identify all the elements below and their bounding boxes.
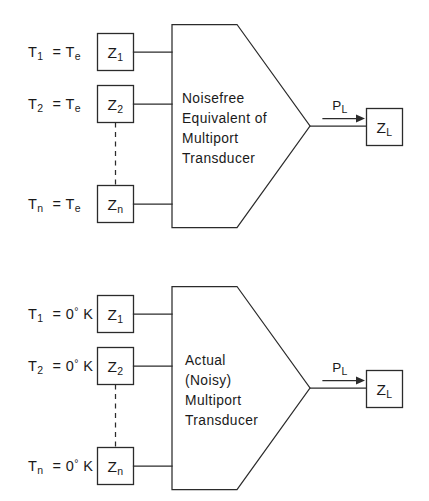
port-row-n: Tn = 0° K Zn bbox=[28, 448, 172, 485]
load-box-zl-label: ZL bbox=[376, 119, 392, 138]
transducer-block-shape bbox=[172, 25, 310, 228]
port-n-temperature-text: Tn = 0° K bbox=[28, 457, 93, 476]
port-row-2: T2 = 0° K Z2 bbox=[28, 348, 172, 385]
figure-root: T1 = Te Z1 T2 = Te Z2 bbox=[0, 0, 429, 501]
port-1-temperature-text: T1 = 0° K bbox=[28, 305, 93, 324]
output-power-label: PL bbox=[332, 360, 348, 377]
impedance-box-z1-label: Z1 bbox=[107, 306, 123, 325]
transducer-block-label: Actual (Noisy) Multiport Transducer bbox=[185, 353, 258, 428]
port-row-1: T1 = Te Z1 bbox=[28, 34, 172, 71]
impedance-box-z2-label: Z2 bbox=[107, 96, 123, 115]
impedance-box-zn-label: Zn bbox=[107, 196, 123, 215]
transducer-block-shape bbox=[172, 287, 310, 490]
diagram-actual-noisy: T1 = 0° K Z1 T2 = 0° K Z2 bbox=[28, 287, 403, 490]
output-group: PL ZL bbox=[310, 360, 403, 408]
diagram-noisefree-equivalent: T1 = Te Z1 T2 = Te Z2 bbox=[28, 25, 403, 228]
impedance-box-z2-label: Z2 bbox=[107, 358, 123, 377]
port-2-temperature-text: T2 = 0° K bbox=[28, 357, 93, 376]
block-diagram-svg: T1 = Te Z1 T2 = Te Z2 bbox=[0, 0, 429, 501]
port-row-2: T2 = Te Z2 bbox=[28, 86, 172, 123]
output-arrow-head-icon bbox=[356, 115, 365, 123]
port-n-temperature-text: Tn = Te bbox=[28, 196, 81, 214]
impedance-box-z1-label: Z1 bbox=[107, 44, 123, 63]
impedance-box-zn-label: Zn bbox=[107, 458, 123, 477]
output-arrow-head-icon bbox=[356, 377, 365, 385]
port-row-n: Tn = Te Zn bbox=[28, 186, 172, 223]
output-power-label: PL bbox=[332, 98, 348, 115]
output-group: PL ZL bbox=[310, 98, 403, 146]
transducer-block-label: Noisefree Equivalent of Multiport Transd… bbox=[182, 91, 271, 166]
port-row-1: T1 = 0° K Z1 bbox=[28, 296, 172, 333]
load-box-zl-label: ZL bbox=[376, 381, 392, 400]
port-1-temperature-text: T1 = Te bbox=[28, 44, 81, 62]
port-2-temperature-text: T2 = Te bbox=[28, 96, 81, 114]
